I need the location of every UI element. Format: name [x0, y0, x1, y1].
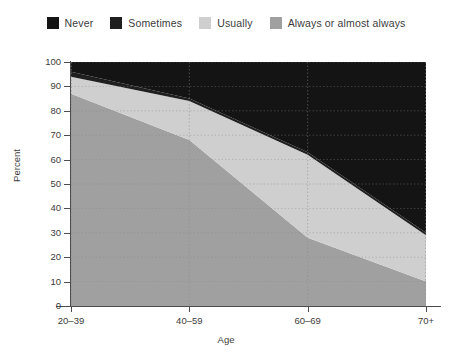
y-tick-mark [64, 282, 70, 283]
y-tick-label-text: 10 [35, 277, 61, 287]
legend-label-sometimes: Sometimes [128, 18, 182, 29]
y-tick-label-text: 20 [35, 252, 61, 262]
y-tick-label: 30 [33, 228, 61, 238]
y-axis-title: Percent [11, 136, 22, 196]
y-tick-mark [64, 111, 70, 112]
y-tick-label-text: 0 [35, 301, 61, 311]
y-tick-label-text: 100 [35, 57, 61, 67]
y-tick-label-text: 70 [35, 130, 61, 140]
y-tick-label: 20 [33, 252, 61, 262]
y-tick-label-text: 30 [35, 228, 61, 238]
x-axis-title: Age [0, 334, 452, 345]
plot-area [71, 62, 426, 306]
y-tick-label-text: 50 [35, 179, 61, 189]
y-tick-label-text: 90 [35, 81, 61, 91]
x-tick-mark [308, 306, 309, 312]
chart-legend: Never Sometimes Usually Always or almost… [0, 17, 452, 29]
y-tick-label: 100 [33, 57, 61, 67]
x-tick-mark [189, 306, 190, 312]
x-axis-line [56, 306, 441, 307]
y-axis-line [70, 61, 71, 307]
y-tick-label: 0 [33, 301, 61, 311]
x-tick-label: 70+ [391, 316, 452, 326]
y-tick-mark [64, 208, 70, 209]
legend-item-usually[interactable]: Usually [199, 17, 252, 29]
legend-label-usually: Usually [217, 18, 252, 29]
legend-label-never: Never [65, 18, 94, 29]
legend-swatch-sometimes [110, 17, 122, 29]
legend-swatch-always [270, 17, 282, 29]
x-tick-label: 20–39 [36, 316, 106, 326]
x-tick-label: 60–69 [273, 316, 343, 326]
legend-item-sometimes[interactable]: Sometimes [110, 17, 182, 29]
y-tick-label: 90 [33, 81, 61, 91]
y-tick-label-text: 60 [35, 155, 61, 165]
x-tick-label: 40–59 [154, 316, 224, 326]
y-tick-mark [64, 306, 70, 307]
y-tick-label-text: 40 [35, 203, 61, 213]
legend-item-always[interactable]: Always or almost always [270, 17, 406, 29]
y-tick-label: 50 [33, 179, 61, 189]
x-tick-mark [71, 306, 72, 312]
y-tick-label-text: 80 [35, 106, 61, 116]
y-tick-mark [64, 86, 70, 87]
y-tick-mark [64, 62, 70, 63]
y-tick-label: 40 [33, 203, 61, 213]
y-tick-mark [64, 135, 70, 136]
legend-label-always: Always or almost always [288, 18, 406, 29]
y-tick-mark [64, 233, 70, 234]
y-tick-mark [64, 184, 70, 185]
x-tick-mark [426, 306, 427, 312]
legend-swatch-never [47, 17, 59, 29]
y-tick-label: 80 [33, 106, 61, 116]
area-series-svg [71, 62, 426, 306]
y-tick-label: 60 [33, 155, 61, 165]
legend-swatch-usually [199, 17, 211, 29]
y-tick-mark [64, 257, 70, 258]
y-tick-label: 70 [33, 130, 61, 140]
y-tick-label: 10 [33, 277, 61, 287]
y-tick-mark [64, 160, 70, 161]
legend-item-never[interactable]: Never [47, 17, 94, 29]
stacked-area-chart: Never Sometimes Usually Always or almost… [0, 0, 452, 352]
